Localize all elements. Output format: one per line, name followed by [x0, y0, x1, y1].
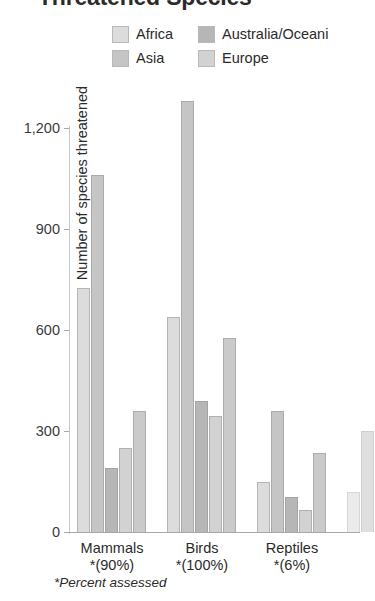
x-axis-line: [69, 532, 360, 533]
y-axis-tick-label: 600: [36, 322, 60, 338]
bar-series-container: [69, 128, 360, 532]
legend-label-australia-oceania: Australia/Oceani: [222, 27, 328, 42]
x-axis-group-label: Reptiles*(6%): [240, 540, 344, 574]
bar: [347, 492, 360, 532]
legend-item-africa: Africa: [112, 22, 198, 46]
legend-swatch-asia: [112, 50, 129, 67]
chart-legend: Africa Australia/Oceani Asia Europe: [112, 22, 362, 70]
x-axis-group-percent: *(6%): [240, 557, 344, 574]
bar: [133, 411, 146, 532]
y-axis-tick-label: 0: [52, 524, 60, 540]
bar: [313, 453, 326, 532]
chart-footnote: *Percent assessed: [54, 575, 167, 590]
bar-group-partial: [347, 128, 375, 532]
y-axis-tick: 300: [36, 423, 69, 439]
bar-group: [77, 128, 147, 532]
y-axis-tick: 900: [36, 221, 69, 237]
legend-swatch-australia-oceania: [198, 26, 215, 43]
bar: [299, 510, 312, 532]
x-axis-group-name: Birds: [150, 540, 254, 557]
bar: [119, 448, 132, 532]
legend-item-australia-oceania: Australia/Oceani: [198, 22, 362, 46]
chart-title: Threatened Species: [38, 0, 252, 11]
bar: [105, 468, 118, 532]
legend-label-europe: Europe: [222, 51, 269, 66]
bar: [257, 482, 270, 533]
y-axis-tick: 600: [36, 322, 69, 338]
bar: [285, 497, 298, 532]
bar: [91, 175, 104, 532]
y-axis-tick-label: 300: [36, 423, 60, 439]
bar-group: [257, 128, 327, 532]
x-axis-group-label: Mammals*(90%): [60, 540, 164, 574]
bar-group: [167, 128, 237, 532]
bar: [181, 101, 194, 532]
y-axis-tick: 0: [52, 524, 69, 540]
plot-area: 03006009001,200: [69, 128, 360, 532]
bar: [271, 411, 284, 532]
bar: [223, 338, 236, 532]
bar: [361, 431, 374, 532]
y-axis-tick-label: 900: [36, 221, 60, 237]
y-axis-tick-label: 1,200: [24, 120, 60, 136]
legend-label-africa: Africa: [136, 27, 173, 42]
bar: [195, 401, 208, 532]
x-axis-group-percent: *(100%): [150, 557, 254, 574]
y-axis-tick: 1,200: [24, 120, 69, 136]
bar: [209, 416, 222, 532]
x-axis-group-label: Birds*(100%): [150, 540, 254, 574]
x-axis-group-percent: *(90%): [60, 557, 164, 574]
x-axis-group-name: Reptiles: [240, 540, 344, 557]
legend-swatch-africa: [112, 26, 129, 43]
legend-label-asia: Asia: [136, 51, 164, 66]
legend-item-europe: Europe: [198, 46, 362, 70]
legend-item-asia: Asia: [112, 46, 198, 70]
x-axis-group-name: Mammals: [60, 540, 164, 557]
bar: [167, 317, 180, 532]
bar: [77, 288, 90, 532]
legend-swatch-europe: [198, 50, 215, 67]
